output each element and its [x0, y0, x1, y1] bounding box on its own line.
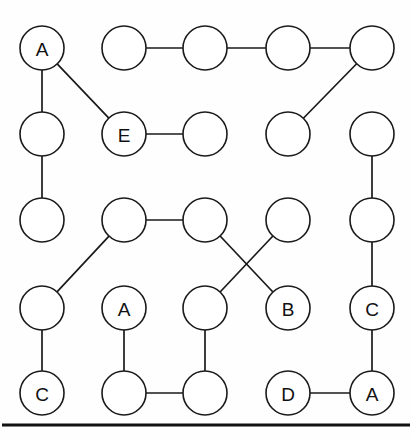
node-circle[interactable]: [102, 26, 146, 70]
graph-node-labeled[interactable]: B: [266, 286, 310, 330]
node-label: C: [365, 299, 379, 320]
node-circle[interactable]: [102, 198, 146, 242]
graph-node-blank[interactable]: [20, 112, 64, 156]
node-circle[interactable]: [266, 198, 310, 242]
figure-root: AEABCCDA: [0, 0, 412, 441]
node-label: A: [366, 384, 379, 405]
graph-edge: [57, 236, 109, 292]
graph-node-labeled[interactable]: D: [266, 371, 310, 415]
node-circle[interactable]: [20, 286, 64, 330]
node-circle[interactable]: [266, 112, 310, 156]
graph-node-labeled[interactable]: C: [20, 371, 64, 415]
graph-node-blank[interactable]: [350, 26, 394, 70]
graph-node-blank[interactable]: [20, 286, 64, 330]
node-label: A: [36, 39, 49, 60]
node-circle[interactable]: [20, 112, 64, 156]
node-circle[interactable]: [266, 26, 310, 70]
node-label: A: [118, 299, 131, 320]
graph-node-labeled[interactable]: E: [102, 112, 146, 156]
graph-node-blank[interactable]: [20, 198, 64, 242]
graph-edge: [303, 64, 356, 119]
node-circle[interactable]: [183, 26, 227, 70]
graph-edge: [57, 64, 109, 118]
graph-canvas: AEABCCDA: [0, 0, 412, 441]
node-circle[interactable]: [102, 371, 146, 415]
graph-node-blank[interactable]: [266, 198, 310, 242]
graph-node-blank[interactable]: [266, 112, 310, 156]
graph-node-labeled[interactable]: A: [350, 371, 394, 415]
graph-node-blank[interactable]: [183, 198, 227, 242]
graph-node-labeled[interactable]: A: [102, 286, 146, 330]
node-circle[interactable]: [183, 112, 227, 156]
graph-node-blank[interactable]: [183, 371, 227, 415]
graph-node-blank[interactable]: [102, 26, 146, 70]
graph-node-blank[interactable]: [183, 112, 227, 156]
graph-node-blank[interactable]: [183, 26, 227, 70]
node-label: B: [282, 299, 295, 320]
graph-node-blank[interactable]: [102, 371, 146, 415]
graph-node-blank[interactable]: [350, 198, 394, 242]
graph-node-blank[interactable]: [266, 26, 310, 70]
node-label: C: [35, 384, 49, 405]
node-circle[interactable]: [183, 286, 227, 330]
node-circle[interactable]: [350, 112, 394, 156]
graph-node-labeled[interactable]: C: [350, 286, 394, 330]
node-circle[interactable]: [183, 371, 227, 415]
node-label: D: [281, 384, 295, 405]
node-circle[interactable]: [350, 26, 394, 70]
graph-node-blank[interactable]: [102, 198, 146, 242]
graph-node-blank[interactable]: [183, 286, 227, 330]
graph-node-labeled[interactable]: A: [20, 26, 64, 70]
node-label: E: [118, 125, 131, 146]
node-circle[interactable]: [20, 198, 64, 242]
graph-node-blank[interactable]: [350, 112, 394, 156]
node-circle[interactable]: [183, 198, 227, 242]
node-circle[interactable]: [350, 198, 394, 242]
